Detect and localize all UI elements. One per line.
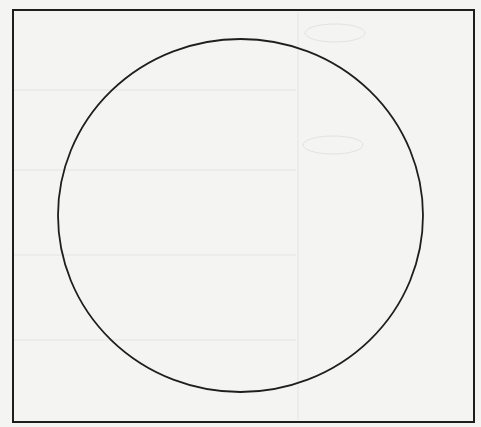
frame-rectangle — [13, 10, 474, 422]
scan-bleed-through — [14, 12, 365, 420]
main-circle — [58, 39, 423, 392]
diagram-canvas — [0, 0, 481, 427]
diagram-svg — [0, 0, 481, 427]
bleed-oval — [305, 24, 365, 42]
bleed-oval — [303, 136, 363, 154]
